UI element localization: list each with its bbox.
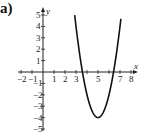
y-tick-label: −5 — [33, 124, 43, 134]
y-tick-label: −3 — [33, 101, 43, 111]
y-tick-label: −1 — [33, 78, 43, 88]
x-tick-label: −2 — [17, 74, 27, 84]
x-tick-label: 1 — [52, 74, 57, 84]
y-tick-label: −2 — [33, 90, 43, 100]
x-tick-label: 7 — [118, 74, 123, 84]
y-axis-label: y — [45, 6, 50, 16]
x-tick-label: 5 — [96, 74, 101, 84]
y-tick-label: 4 — [36, 21, 41, 31]
y-tick-label: 5 — [36, 10, 41, 20]
y-tick-label: 3 — [36, 33, 41, 43]
x-axis-label: x — [133, 61, 138, 71]
parabola-curve — [75, 15, 121, 117]
x-tick-label: 3 — [74, 74, 79, 84]
y-tick-label: 1 — [36, 56, 41, 66]
parabola-plot: −2−112357854321−1−2−3−4−5xy — [0, 0, 143, 138]
y-tick-label: −4 — [33, 113, 43, 123]
x-tick-label: 8 — [129, 74, 134, 84]
x-tick-label: 2 — [63, 74, 68, 84]
y-tick-label: 2 — [36, 44, 41, 54]
y-axis-arrow-icon — [41, 7, 45, 12]
